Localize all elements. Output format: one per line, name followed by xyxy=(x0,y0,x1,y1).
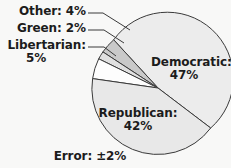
slice-label-republican: Republican: 42% xyxy=(96,107,180,134)
slice-label-libertarian: Libertarian: 5% xyxy=(0,39,86,66)
slice-label-libertarian-name: Libertarian: xyxy=(7,38,86,52)
pie-chart-figure: Other: 4% Green: 2% Libertarian: 5% Demo… xyxy=(0,0,231,168)
slice-label-republican-name: Republican: xyxy=(99,106,178,120)
leader-line-other xyxy=(88,13,130,30)
slice-label-democratic-name: Democratic: xyxy=(151,55,231,69)
slice-label-democratic-value: 47% xyxy=(151,69,231,82)
slice-label-libertarian-value: 5% xyxy=(0,52,86,65)
margin-of-error-note: Error: ±2% xyxy=(0,150,180,163)
slice-label-republican-value: 42% xyxy=(96,120,180,133)
slice-label-other: Other: 4% xyxy=(0,5,86,18)
slice-label-democratic: Democratic: 47% xyxy=(151,56,231,83)
slice-label-green: Green: 2% xyxy=(0,22,86,35)
